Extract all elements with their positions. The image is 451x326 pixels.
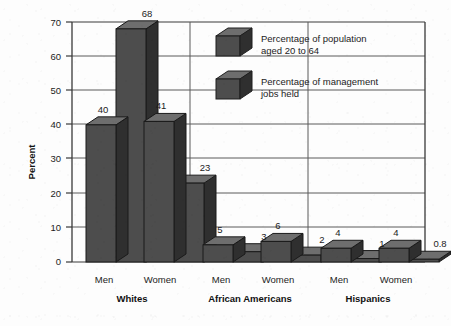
x-axis-category-labels: Men Women Men Women Men Women — [95, 274, 413, 285]
y-tick-10: 10 — [50, 222, 61, 233]
bar-african-americans-women-population — [261, 233, 303, 262]
value-label-african-americans-women-population: 6 — [275, 220, 280, 231]
cat-label-aa-women: Women — [262, 274, 295, 285]
group-label-whites: Whites — [116, 293, 147, 304]
value-label-whites-men-management: 68 — [142, 8, 153, 19]
cat-label-hisp-men: Men — [330, 274, 348, 285]
y-axis-ticks — [66, 22, 72, 262]
value-label-african-americans-men-population: 5 — [217, 224, 222, 235]
legend-swatch-management — [216, 71, 252, 99]
value-label-hispanics-men-management: 1 — [379, 238, 384, 249]
x-axis-group-labels: Whites African Americans Hispanics — [116, 293, 390, 304]
bar-hispanics-men-population — [321, 240, 363, 262]
value-label-whites-men-population: 40 — [98, 104, 109, 115]
chart-legend: Percentage of population aged 20 to 64 P… — [216, 28, 379, 99]
group-label-hispanics: Hispanics — [346, 293, 391, 304]
group-label-african-americans: African Americans — [208, 293, 292, 304]
legend-label-management-line2: jobs held — [260, 88, 299, 99]
y-tick-70: 70 — [50, 17, 61, 28]
cat-label-whites-women: Women — [144, 274, 177, 285]
value-label-hispanics-women-management: 0.8 — [433, 238, 446, 249]
bar-african-americans-men-population — [203, 237, 245, 262]
y-tick-60: 60 — [50, 51, 61, 62]
y-tick-40: 40 — [50, 119, 61, 130]
bar-whites-men-population — [86, 117, 128, 262]
legend-label-population-line2: aged 20 to 64 — [261, 45, 319, 56]
legend-swatch-population — [216, 28, 252, 56]
bar-whites-women-population — [144, 113, 186, 262]
y-tick-20: 20 — [50, 188, 61, 199]
value-label-african-americans-women-management: 2 — [319, 234, 324, 245]
legend-label-management-line1: Percentage of management — [261, 76, 379, 87]
cat-label-hisp-women: Women — [380, 274, 413, 285]
y-axis-title: Percent — [26, 144, 37, 180]
value-label-hispanics-women-population: 4 — [393, 227, 398, 238]
bar-hispanics-women-population — [379, 240, 421, 262]
y-tick-50: 50 — [50, 85, 61, 96]
value-label-whites-women-population: 41 — [156, 100, 167, 111]
value-label-african-americans-men-management: 3 — [261, 231, 266, 242]
value-label-whites-women-management: 23 — [200, 162, 211, 173]
bar-series-group — [86, 21, 451, 262]
value-label-hispanics-men-population: 4 — [335, 227, 340, 238]
grouped-bar-chart: Percent 0 10 20 30 40 50 60 70 — [0, 0, 451, 326]
y-tick-0: 0 — [56, 256, 61, 267]
legend-label-population-line1: Percentage of population — [261, 33, 367, 44]
cat-label-whites-men: Men — [95, 274, 113, 285]
y-tick-30: 30 — [50, 153, 61, 164]
cat-label-aa-men: Men — [212, 274, 230, 285]
y-axis-tick-labels: 0 10 20 30 40 50 60 70 — [50, 17, 61, 267]
